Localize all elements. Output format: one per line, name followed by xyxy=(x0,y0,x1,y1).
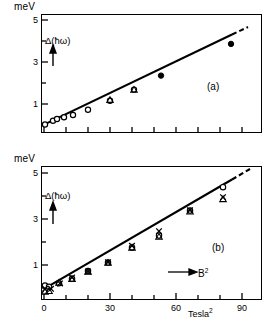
panel-b-b2-arrow xyxy=(168,269,197,275)
panel-b-graphics xyxy=(0,152,279,330)
panel-b: meV 5 3 1 Δ(ħω) (b) B2 0 30 60 90 Tesla2 xyxy=(0,152,279,330)
panel-b-delta-arrow xyxy=(50,202,56,224)
panel-b-x-ticks xyxy=(44,293,242,300)
panel-a-open-triangles xyxy=(107,87,137,103)
panel-a-delta-arrow xyxy=(50,45,56,66)
panel-a: meV 5 3 1 Δ(ħω) (a) xyxy=(0,0,279,152)
panel-a-x-ticks xyxy=(44,127,242,133)
panel-b-y-ticks xyxy=(41,173,48,288)
panel-b-fit-line xyxy=(44,180,232,289)
panel-a-graphics xyxy=(0,0,279,152)
panel-a-fit-line xyxy=(44,35,232,125)
panel-a-filled-circles xyxy=(158,41,233,78)
panel-a-fit-line-dash xyxy=(232,27,248,35)
panel-a-open-circles xyxy=(42,87,136,127)
figure-container: meV 5 3 1 Δ(ħω) (a) xyxy=(0,0,279,330)
panel-a-y-ticks xyxy=(41,20,48,125)
panel-b-fit-line-dash xyxy=(232,169,250,180)
